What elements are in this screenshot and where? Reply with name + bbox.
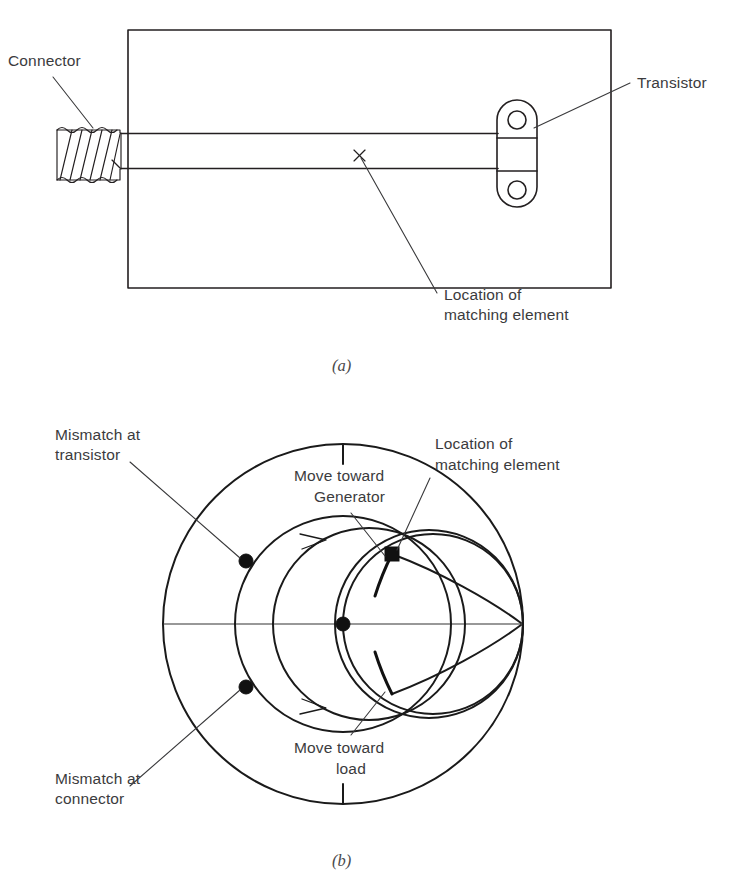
matching-location-label-line2: matching element [444, 306, 569, 323]
technical-figure-svg: Connector Transistor Location of matchin… [0, 0, 752, 892]
point-mismatch-at-transistor[interactable] [239, 554, 253, 568]
connector-thread-flank [80, 130, 92, 180]
transistor-outline [497, 100, 537, 207]
panel-a-group: Connector Transistor Location of matchin… [8, 30, 707, 375]
panel-b-caption: (b) [332, 851, 351, 870]
move-load-label-line1: Move toward [294, 739, 384, 756]
traced-matching-path-lower [375, 652, 392, 694]
move-load-label-line2: load [336, 760, 366, 777]
enclosure-rectangle [128, 30, 611, 288]
matching-element-leader-line [361, 158, 437, 293]
transistor-package [497, 100, 537, 207]
figure-root: Connector Transistor Location of matchin… [0, 0, 752, 892]
mismatch-transistor-leader-line [130, 462, 240, 558]
matching-location-label-b-line2: matching element [435, 456, 560, 473]
transistor-label: Transistor [637, 74, 707, 91]
point-mismatch-at-connector[interactable] [239, 680, 253, 694]
connector-thread-flank [110, 134, 120, 180]
move-generator-label-line2: Generator [314, 488, 385, 505]
panel-b-group: Mismatch at transistor Mismatch at conne… [55, 426, 560, 870]
connector-label: Connector [8, 52, 81, 69]
mismatch-connector-leader-line [130, 690, 240, 786]
connector-thread-flank [90, 130, 102, 180]
mismatch-connector-label-line2: connector [55, 790, 124, 807]
connector-leader-line [53, 77, 93, 128]
mismatch-connector-label-line1: Mismatch at [55, 770, 141, 787]
matching-location-label-line1: Location of [444, 286, 522, 303]
mismatch-transistor-label-line2: transistor [55, 446, 120, 463]
connector-thread-flank [100, 130, 112, 180]
matching-element-cross-marker [354, 150, 365, 161]
transistor-mounting-hole-bottom [508, 181, 526, 199]
connector-thread-flank [70, 130, 82, 180]
transistor-mounting-hole-top [508, 111, 526, 129]
matching-location-label-b-line1: Location of [435, 435, 513, 452]
connector-thread-flank [60, 130, 72, 180]
point-chart-center-matched[interactable] [336, 617, 350, 631]
move-generator-label-line1: Move toward [294, 467, 384, 484]
connector-screw-symbol [57, 128, 121, 183]
panel-a-caption: (a) [332, 356, 351, 375]
transistor-leader-line [534, 83, 630, 128]
mismatch-transistor-label-line1: Mismatch at [55, 426, 141, 443]
